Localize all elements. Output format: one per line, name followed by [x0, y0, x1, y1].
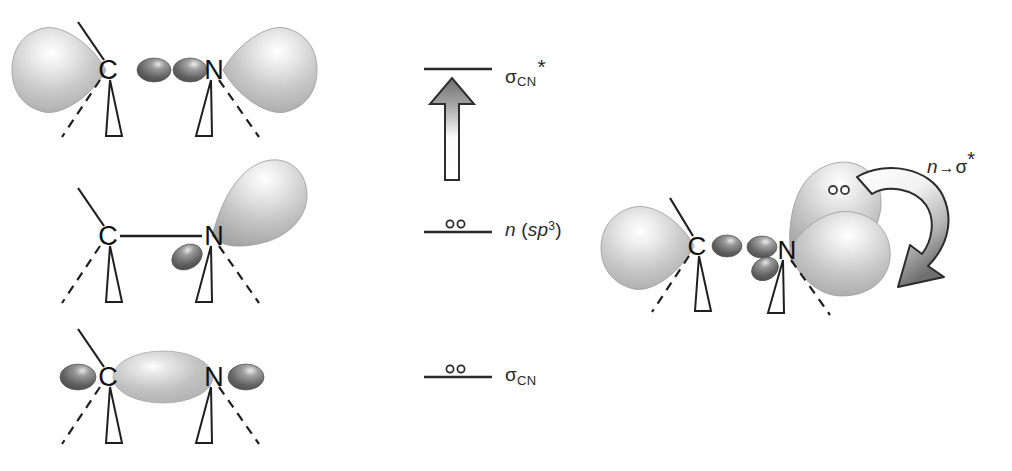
energy-level-label-sigma-star: σCN*	[505, 55, 546, 89]
large-outer-lobe-right-icon	[223, 27, 317, 112]
energy-level-diagram	[424, 69, 492, 377]
bond-wedge-from-c-3	[106, 387, 122, 443]
sigma-subscript: CN	[517, 373, 537, 388]
structure-sigma-bonding: C N	[60, 329, 264, 444]
label-n: n	[927, 156, 938, 177]
electron-pair-sigma-level	[446, 365, 464, 372]
label-arrow: →	[938, 159, 956, 176]
energy-level-label-n-sp3: n (sp3)	[505, 219, 562, 241]
bond-dashed-from-c-3	[62, 387, 100, 444]
small-outer-lobe-right-icon	[228, 364, 264, 390]
label-sigma: σ	[956, 156, 968, 177]
bond-wedge-from-c-2	[106, 246, 122, 302]
electron-pair-n-level	[446, 220, 464, 227]
sigma-star-superscript: *	[538, 55, 546, 78]
atom-label-nitrogen-3: N	[204, 362, 224, 392]
large-teardrop-lobe-icon	[212, 160, 307, 246]
small-lobe-below-n-icon	[167, 239, 207, 275]
bond-wedge-from-n	[196, 80, 212, 136]
bond-dashed-from-n-3	[219, 387, 259, 444]
bond-wedge-from-c-4	[695, 256, 711, 311]
n-symbol: n	[505, 219, 516, 240]
structure-n-sp3-lone-pair: C N	[62, 160, 307, 303]
energy-level-label-sigma: σCN	[505, 364, 537, 388]
atom-label-carbon-4: C	[688, 231, 707, 261]
large-outer-lobe-left-icon	[12, 27, 106, 112]
bond-dashed-from-n-2	[219, 246, 259, 303]
structure-overlap-n-sigma-star: C N	[601, 162, 949, 315]
atom-label-carbon-2: C	[98, 221, 118, 251]
atom-label-carbon-3: C	[98, 362, 118, 392]
bond-wedge-from-c	[106, 80, 122, 136]
n-to-sigma-star-label: n→σ*	[927, 148, 975, 178]
atom-label-carbon-1: C	[98, 55, 118, 85]
label-star: *	[967, 148, 975, 170]
bond-dashed-from-c-2	[62, 246, 100, 303]
overlap-large-left-lobe-icon	[601, 206, 694, 289]
sigma-star-subscript: CN	[517, 74, 537, 89]
energy-increase-arrow-icon	[430, 78, 474, 180]
small-inner-lobe-left-icon	[137, 58, 171, 82]
sigma-star-symbol: σ	[505, 66, 517, 87]
n-parenthetical: (sp3)	[521, 219, 561, 240]
bonding-lens-lobe-icon	[113, 351, 213, 403]
overlap-small-inner-lobe-right-icon	[747, 236, 777, 258]
orbital-diagram-figure: C N C N	[0, 0, 1012, 471]
small-inner-lobe-right-icon	[173, 58, 207, 82]
sigma-symbol: σ	[505, 364, 517, 385]
overlap-small-inner-lobe-left-icon	[712, 235, 742, 257]
atom-label-nitrogen-1: N	[204, 55, 224, 85]
atom-label-nitrogen-4: N	[778, 235, 797, 265]
atom-label-nitrogen-2: N	[204, 221, 224, 251]
structure-sigma-star-antibonding: C N	[12, 22, 317, 137]
small-outer-lobe-left-icon	[60, 364, 96, 390]
